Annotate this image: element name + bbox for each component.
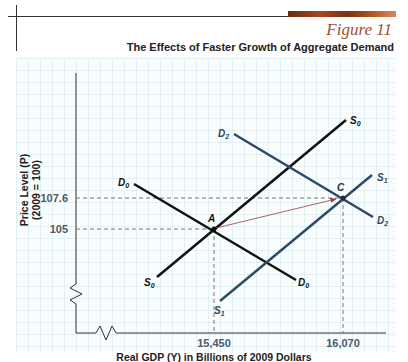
svg-text:Price Level (P): Price Level (P) <box>18 154 30 226</box>
point-c-label: C <box>337 182 345 193</box>
y-tick-107-6: 107.6 <box>40 192 68 204</box>
chart: A C D0 D0 S0 S0 D2 D2 S1 S1 105 107.6 15… <box>0 0 408 362</box>
point-a-label: A <box>207 213 215 224</box>
svg-text:(2009 = 100): (2009 = 100) <box>30 160 42 220</box>
point-a <box>212 227 217 232</box>
x-axis-label: Real GDP (Y) in Billions of 2009 Dollars <box>116 351 311 362</box>
point-c <box>341 196 346 201</box>
x-tick-15450: 15,450 <box>197 337 231 349</box>
grid <box>16 58 396 352</box>
y-axis-label: Price Level (P) (2009 = 100) <box>18 154 42 226</box>
x-tick-16070: 16,070 <box>326 337 360 349</box>
y-tick-105: 105 <box>50 223 68 235</box>
